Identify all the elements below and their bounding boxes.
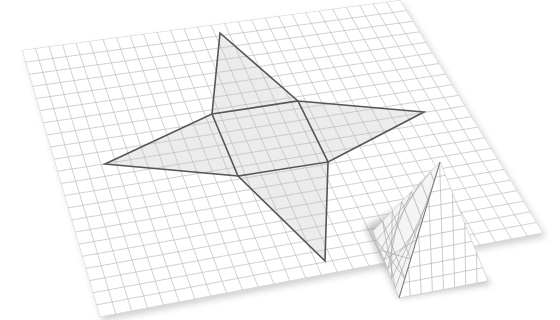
figure-canvas: Net of a square pyramid on grid paper bbox=[0, 0, 560, 320]
pyramid-net-illustration bbox=[0, 0, 560, 320]
